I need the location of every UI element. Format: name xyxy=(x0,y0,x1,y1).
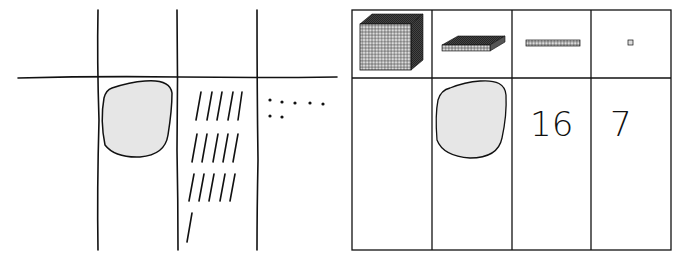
tens-value: 16 xyxy=(530,107,573,141)
hundreds-flat-icon xyxy=(442,36,505,51)
tens-sticks xyxy=(187,92,242,242)
mat-lines xyxy=(0,0,340,265)
tens-rod-icon xyxy=(526,40,580,46)
blob-shape xyxy=(102,81,172,157)
thousands-cube-icon xyxy=(360,14,423,70)
ones-value: 7 xyxy=(610,107,632,141)
blob-shape xyxy=(436,81,506,158)
hand-drawn-place-value-mat xyxy=(0,0,340,265)
place-value-chart: 16 7 xyxy=(340,0,679,265)
ones-dots xyxy=(268,98,324,118)
ones-unit-icon xyxy=(628,40,633,45)
